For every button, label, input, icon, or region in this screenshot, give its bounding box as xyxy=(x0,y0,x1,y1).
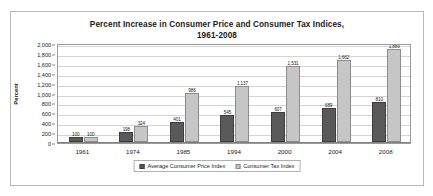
y-tick-label: 1,400 xyxy=(37,72,51,78)
chart-title-line-1: Percent Increase in Consumer Price and C… xyxy=(11,19,423,30)
x-tick-label-1961: 1961 xyxy=(75,148,89,155)
bar-ctax-1985[interactable]: 986 xyxy=(185,93,199,142)
bar-value-label: 986 xyxy=(188,88,195,93)
y-tick-mark xyxy=(52,54,55,55)
bar-value-label: 607 xyxy=(274,107,281,112)
bar-group: 6071,531 xyxy=(260,44,311,142)
bar-ctax-1994[interactable]: 1,137 xyxy=(235,86,249,142)
legend-label-ctax: Consumer Tax Index xyxy=(243,163,294,169)
y-tick-label: 0 xyxy=(48,141,51,147)
bar-group: 198324 xyxy=(109,44,160,142)
bar-cpi-2000[interactable]: 607 xyxy=(271,112,285,142)
y-tick-mark xyxy=(52,104,55,105)
y-tick-label: 2,000 xyxy=(37,42,51,48)
bar-value-label: 100 xyxy=(72,132,79,137)
legend-item-cpi: Average Consumer Price Index xyxy=(140,163,226,169)
x-axis-baseline xyxy=(58,142,410,143)
y-tick-mark xyxy=(52,94,55,95)
bar-group: 401986 xyxy=(159,44,210,142)
y-tick-mark xyxy=(52,74,55,75)
y-tick-label: 400 xyxy=(42,121,51,127)
y-tick-label: 1,800 xyxy=(37,52,51,58)
bar-value-label: 810 xyxy=(376,97,383,102)
bar-cpi-2004[interactable]: 689 xyxy=(322,108,336,142)
bar-value-label: 100 xyxy=(87,132,94,137)
y-tick-mark xyxy=(52,45,55,46)
x-tick-label-2008: 2008 xyxy=(379,148,393,155)
bar-group: 5451,137 xyxy=(210,44,261,142)
legend-item-consumer-tax-index: Consumer Tax Index xyxy=(235,163,294,169)
bar-value-label: 198 xyxy=(123,127,130,132)
y-tick-mark xyxy=(52,64,55,65)
x-tick-label-1985: 1985 xyxy=(177,148,191,155)
y-tick-label: 1,000 xyxy=(37,92,51,98)
bar-value-label: 324 xyxy=(138,121,145,126)
y-tick-label: 1,200 xyxy=(37,82,51,88)
y-tick-label: 200 xyxy=(42,131,51,137)
bar-group: 8101,889 xyxy=(361,44,411,142)
bar-value-label: 1,531 xyxy=(288,61,299,66)
y-tick-mark xyxy=(52,114,55,115)
legend-swatch-ctax-icon xyxy=(235,164,240,169)
bar-value-label: 689 xyxy=(325,103,332,108)
x-tick-label-1974: 1974 xyxy=(126,148,140,155)
chart-title: Percent Increase in Consumer Price and C… xyxy=(11,19,423,41)
y-axis-ticks: 2,0001,8001,6001,4001,2001,0008006004002… xyxy=(11,44,55,144)
bar-cpi-1974[interactable]: 198 xyxy=(119,132,133,142)
bar-group: 100100 xyxy=(58,44,109,142)
bar-value-label: 1,889 xyxy=(389,44,400,49)
y-tick-mark xyxy=(52,84,55,85)
bar-ctax-2000[interactable]: 1,531 xyxy=(286,66,300,142)
bar-cpi-1994[interactable]: 545 xyxy=(220,115,234,142)
bar-cpi-2008[interactable]: 810 xyxy=(372,102,386,142)
x-tick-label-2000: 2000 xyxy=(278,148,292,155)
y-tick-mark xyxy=(52,124,55,125)
bar-ctax-2004[interactable]: 1,662 xyxy=(337,60,351,142)
bar-group: 6891,662 xyxy=(311,44,362,142)
bar-cpi-1985[interactable]: 401 xyxy=(170,122,184,142)
bar-value-label: 1,662 xyxy=(338,55,349,60)
y-tick-label: 1,600 xyxy=(37,62,51,68)
legend-swatch-cpi-icon xyxy=(140,164,145,169)
bar-ctax-1974[interactable]: 324 xyxy=(134,126,148,142)
plot-wrapper: 1001001983244019865451,1376071,5316891,6… xyxy=(57,44,411,144)
x-tick-label-2004: 2004 xyxy=(328,148,342,155)
legend-label-cpi: Average Consumer Price Index xyxy=(148,163,226,169)
y-tick-mark xyxy=(52,144,55,145)
bar-ctax-2008[interactable]: 1,889 xyxy=(387,49,401,143)
bar-value-label: 1,137 xyxy=(237,81,248,86)
y-tick-label: 600 xyxy=(42,111,51,117)
y-tick-mark xyxy=(52,134,55,135)
bar-value-label: 401 xyxy=(173,117,180,122)
chart-title-line-2: 1961-2008 xyxy=(11,30,423,41)
chart-legend: Average Consumer Price Index Consumer Ta… xyxy=(134,160,301,172)
chart-figure: Percent Increase in Consumer Price and C… xyxy=(10,11,424,186)
x-tick-label-1994: 1994 xyxy=(227,148,241,155)
y-tick-label: 800 xyxy=(42,101,51,107)
bar-value-label: 545 xyxy=(224,110,231,115)
x-axis-ticks: 1961197419851994200020042008 xyxy=(57,146,411,158)
plot-area: 1001001983244019865451,1376071,5316891,6… xyxy=(57,44,411,144)
